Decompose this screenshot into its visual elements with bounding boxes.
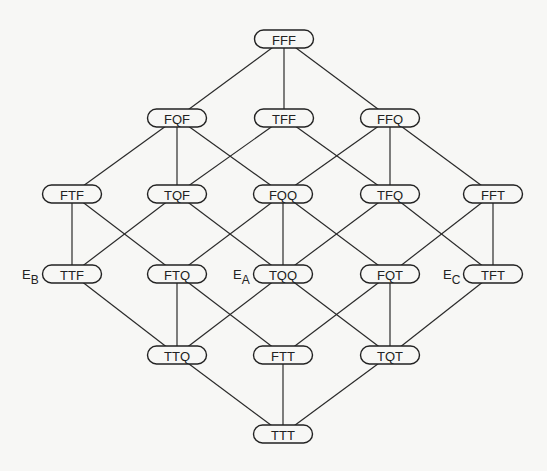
node-ftq: FTQ: [148, 265, 207, 283]
annotation-subscript: A: [242, 273, 250, 287]
edge-tft-tqt: [390, 274, 493, 355]
node-label: FQT: [377, 268, 403, 283]
node-label: FQF: [164, 112, 190, 127]
node-fqq: FQQ: [254, 185, 313, 203]
node-label: TTT: [271, 428, 295, 443]
annotation-main: E: [22, 267, 31, 282]
node-label: FTF: [60, 188, 84, 203]
node-tft: TFT: [464, 265, 523, 283]
node-ttf: TTF: [43, 265, 102, 283]
node-label: TTF: [60, 268, 84, 283]
node-tff: TFF: [255, 109, 314, 127]
annotation-main: E: [443, 267, 452, 282]
annotation-eb: EB: [22, 267, 39, 287]
node-ffq: FFQ: [361, 109, 420, 127]
edge-fqf-ftf: [72, 118, 177, 194]
edge-fff-ffq: [284, 39, 390, 118]
node-label: TTQ: [164, 349, 190, 364]
node-fqt: FQT: [361, 265, 420, 283]
edge-tqt-ttt: [283, 355, 390, 434]
node-label: TQT: [377, 349, 403, 364]
annotation-main: E: [233, 267, 242, 282]
node-label: FFT: [481, 188, 505, 203]
edge-ttf-ttq: [72, 274, 177, 355]
node-label: FFQ: [377, 112, 403, 127]
node-fqf: FQF: [148, 109, 207, 127]
annotation-ec: EC: [443, 267, 461, 287]
node-label: FTT: [271, 349, 295, 364]
node-label: TQF: [164, 188, 190, 203]
node-label: TQQ: [269, 268, 297, 283]
node-fft: FFT: [464, 185, 523, 203]
node-tqt: TQT: [361, 346, 420, 364]
node-label: FFF: [272, 33, 296, 48]
node-label: FQQ: [269, 188, 297, 203]
node-ftt: FTT: [254, 346, 313, 364]
annotation-ea: EA: [233, 267, 250, 287]
node-fff: FFF: [255, 30, 314, 48]
edge-ttq-ttt: [177, 355, 283, 434]
node-ttt: TTT: [254, 425, 313, 443]
edge-fff-fqf: [177, 39, 284, 118]
node-ftf: FTF: [43, 185, 102, 203]
node-tqf: TQF: [148, 185, 207, 203]
node-label: TFT: [481, 268, 505, 283]
edge-ffq-fft: [390, 118, 493, 194]
annotation-subscript: B: [31, 273, 39, 287]
node-label: TFF: [272, 112, 296, 127]
node-tfq: TFQ: [361, 185, 420, 203]
edges-layer: [72, 39, 493, 434]
annotation-subscript: C: [452, 273, 461, 287]
node-tqq: TQQ: [254, 265, 313, 283]
node-ttq: TTQ: [148, 346, 207, 364]
lattice-diagram: FFFFQFTFFFFQFTFTQFFQQTFQFFTTTFFTQTQQFQTT…: [0, 0, 547, 471]
node-label: TFQ: [377, 188, 403, 203]
node-label: FTQ: [164, 268, 190, 283]
